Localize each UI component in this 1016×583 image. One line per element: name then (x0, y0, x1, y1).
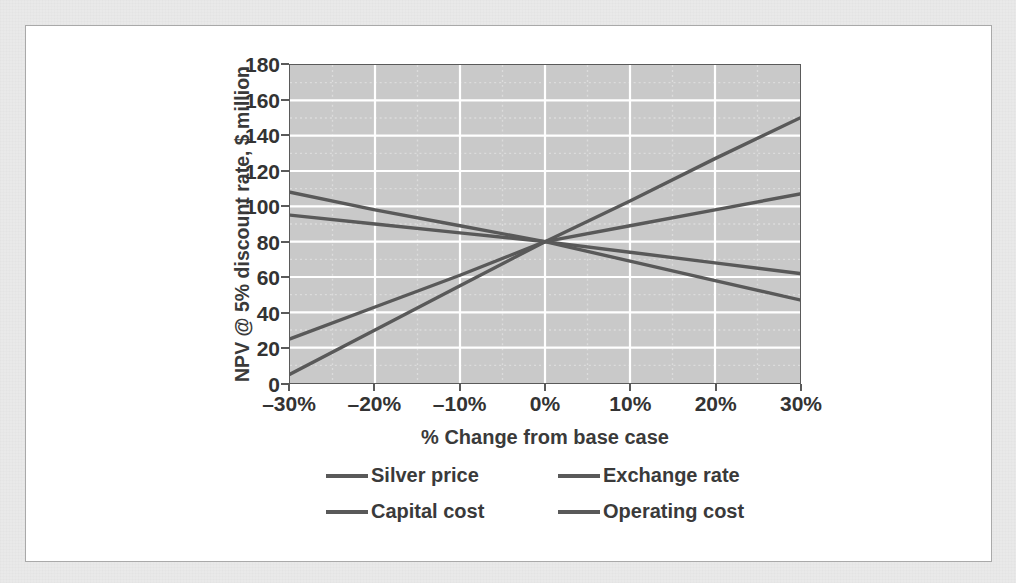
chart-legend: Silver price Exchange rate Capital cost … (289, 464, 801, 536)
x-tick-label: –20% (347, 393, 401, 414)
y-tick-label: 100 (245, 196, 280, 217)
y-axis-title-text: NPV @ 5% discount rate, $ million (231, 66, 254, 382)
legend-item-operating-cost: Operating cost (558, 500, 764, 523)
y-tick-label: 140 (245, 125, 280, 146)
legend-label: Operating cost (603, 500, 744, 523)
y-tick-label: 60 (257, 267, 280, 288)
y-tick-label: 20 (257, 338, 280, 359)
y-tick-label: 40 (257, 302, 280, 323)
y-tick-mark (281, 63, 289, 65)
y-tick-label: 120 (245, 160, 280, 181)
y-tick-label: 160 (245, 89, 280, 110)
legend-item-capital-cost: Capital cost (326, 500, 532, 523)
x-tick-label: –30% (262, 393, 316, 414)
plot-box (289, 64, 801, 384)
x-tick-mark (544, 384, 546, 391)
legend-line-swatch-icon (558, 510, 600, 514)
x-tick-label: 20% (695, 393, 737, 414)
y-tick-mark (281, 347, 289, 349)
x-tick-label: 10% (609, 393, 651, 414)
x-tick-mark (629, 384, 631, 391)
y-tick-mark (281, 312, 289, 314)
chart-plot-area: NPV @ 5% discount rate, $ million 020406… (289, 64, 801, 384)
y-tick-mark (281, 276, 289, 278)
legend-item-exchange-rate: Exchange rate (558, 464, 764, 487)
x-axis-title: % Change from base case (289, 426, 801, 449)
legend-item-silver-price: Silver price (326, 464, 532, 487)
x-tick-label: –10% (433, 393, 487, 414)
legend-label: Exchange rate (603, 464, 740, 487)
y-tick-mark (281, 170, 289, 172)
x-tick-label: 30% (780, 393, 822, 414)
legend-line-swatch-icon (326, 510, 368, 514)
series-lines-svg (290, 65, 800, 383)
legend-row: Silver price Exchange rate (289, 464, 801, 487)
y-tick-mark (281, 99, 289, 101)
x-tick-label: 0% (530, 393, 560, 414)
y-tick-mark (281, 134, 289, 136)
y-axis-title: NPV @ 5% discount rate, $ million (229, 64, 255, 384)
legend-line-swatch-icon (558, 474, 600, 478)
legend-label: Silver price (371, 464, 479, 487)
x-tick-mark (715, 384, 717, 391)
y-tick-label: 180 (245, 54, 280, 75)
x-tick-mark (459, 384, 461, 391)
x-tick-mark (288, 384, 290, 391)
y-tick-mark (281, 241, 289, 243)
legend-label: Capital cost (371, 500, 484, 523)
y-tick-label: 80 (257, 231, 280, 252)
legend-row: Capital cost Operating cost (289, 500, 801, 523)
figure-panel: NPV @ 5% discount rate, $ million 020406… (25, 25, 992, 562)
x-tick-mark (373, 384, 375, 391)
y-tick-mark (281, 205, 289, 207)
x-tick-mark (800, 384, 802, 391)
legend-line-swatch-icon (326, 474, 368, 478)
